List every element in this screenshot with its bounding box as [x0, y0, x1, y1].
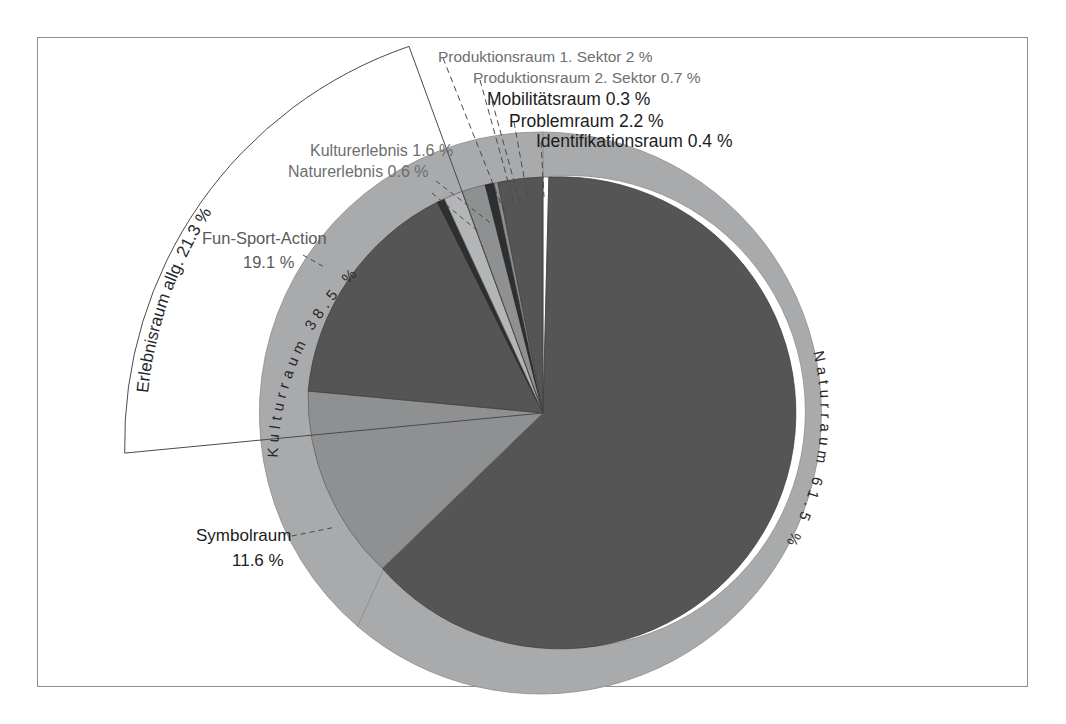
pie-chart-figure: Naturraum 61.5 % Kulturraum 38.5 % Erleb… [0, 0, 1066, 724]
label-fun-sport-action-line1: Fun-Sport-Action [202, 229, 327, 248]
label-fun-sport-action-line2: 19.1 % [243, 253, 294, 272]
label-symbolraum-line2: 11.6 % [232, 551, 284, 571]
label-symbolraum-line1: Symbolraum [196, 526, 291, 546]
label-identifikationsraum: Identifikationsraum 0.4 % [536, 131, 733, 152]
label-kulturerlebnis: Kulturerlebnis 1.6 % [310, 142, 453, 161]
label-produktionsraum-1-sektor: Produktionsraum 1. Sektor 2 % [438, 48, 653, 66]
label-mobilitaetsraum: Mobilitätsraum 0.3 % [487, 89, 650, 110]
label-produktionsraum-2-sektor: Produktionsraum 2. Sektor 0.7 % [473, 69, 700, 87]
label-problemraum: Problemraum 2.2 % [509, 111, 664, 132]
label-naturerlebnis: Naturerlebnis 0.6 % [288, 163, 429, 182]
